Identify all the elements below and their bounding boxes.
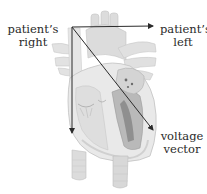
heart-vector-diagram: patient’s right patient’s left voltage v… bbox=[0, 0, 207, 194]
inferior-vena-cava bbox=[72, 150, 86, 180]
label-patient-right: patient’s right bbox=[4, 23, 62, 49]
label-patient-left: patient’s left bbox=[160, 23, 206, 49]
label-patient-left-line2: left bbox=[160, 36, 206, 49]
patient-left-axis-arrow bbox=[72, 26, 153, 27]
label-voltage-vector-line2: vector bbox=[158, 143, 206, 156]
label-patient-right-line2: right bbox=[4, 36, 62, 49]
label-voltage-vector: voltage vector bbox=[158, 130, 206, 156]
descending-aorta bbox=[113, 156, 128, 188]
